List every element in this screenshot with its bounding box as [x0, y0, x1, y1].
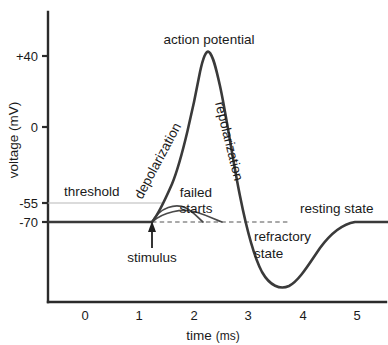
x-tick-label-0: 0 — [81, 308, 88, 323]
y-tick-label-minus70: -70 — [19, 215, 38, 230]
action-potential-chart: +40 0 -55 -70 voltage (mV) 0 1 2 3 4 5 t… — [0, 0, 388, 345]
annotation-threshold: threshold — [64, 184, 120, 199]
y-tick-label-minus55: -55 — [19, 196, 38, 211]
x-tick-label-4: 4 — [299, 308, 306, 323]
x-tick-label-2: 2 — [190, 308, 197, 323]
annotation-failed-starts-line2: starts — [179, 201, 212, 216]
x-tick-label-5: 5 — [353, 308, 360, 323]
stimulus-arrow — [148, 221, 156, 248]
action-potential-figure: +40 0 -55 -70 voltage (mV) 0 1 2 3 4 5 t… — [0, 0, 388, 345]
y-tick-label-zero: 0 — [31, 120, 38, 135]
annotation-resting-state: resting state — [300, 201, 374, 216]
y-tick-label-plus40: +40 — [16, 49, 38, 64]
x-axis-title-label: time — [186, 328, 212, 343]
y-axis-title: voltage (mV) — [6, 102, 21, 179]
annotation-repolarization: repolarization — [212, 100, 246, 182]
x-axis-title: time (ms) — [186, 328, 239, 343]
x-tick-label-3: 3 — [244, 308, 251, 323]
annotation-stimulus: stimulus — [127, 250, 177, 265]
annotation-depolarization: depolarization — [131, 120, 184, 201]
axes-group — [42, 12, 386, 302]
x-tick-label-1: 1 — [135, 308, 142, 323]
x-axis-title-unit: (ms) — [216, 329, 240, 343]
annotation-refractory-line1: refractory — [254, 229, 311, 244]
annotation-refractory-line2: state — [254, 246, 283, 261]
annotation-action-potential: action potential — [164, 32, 255, 47]
annotation-failed-starts-line1: failed — [180, 185, 212, 200]
